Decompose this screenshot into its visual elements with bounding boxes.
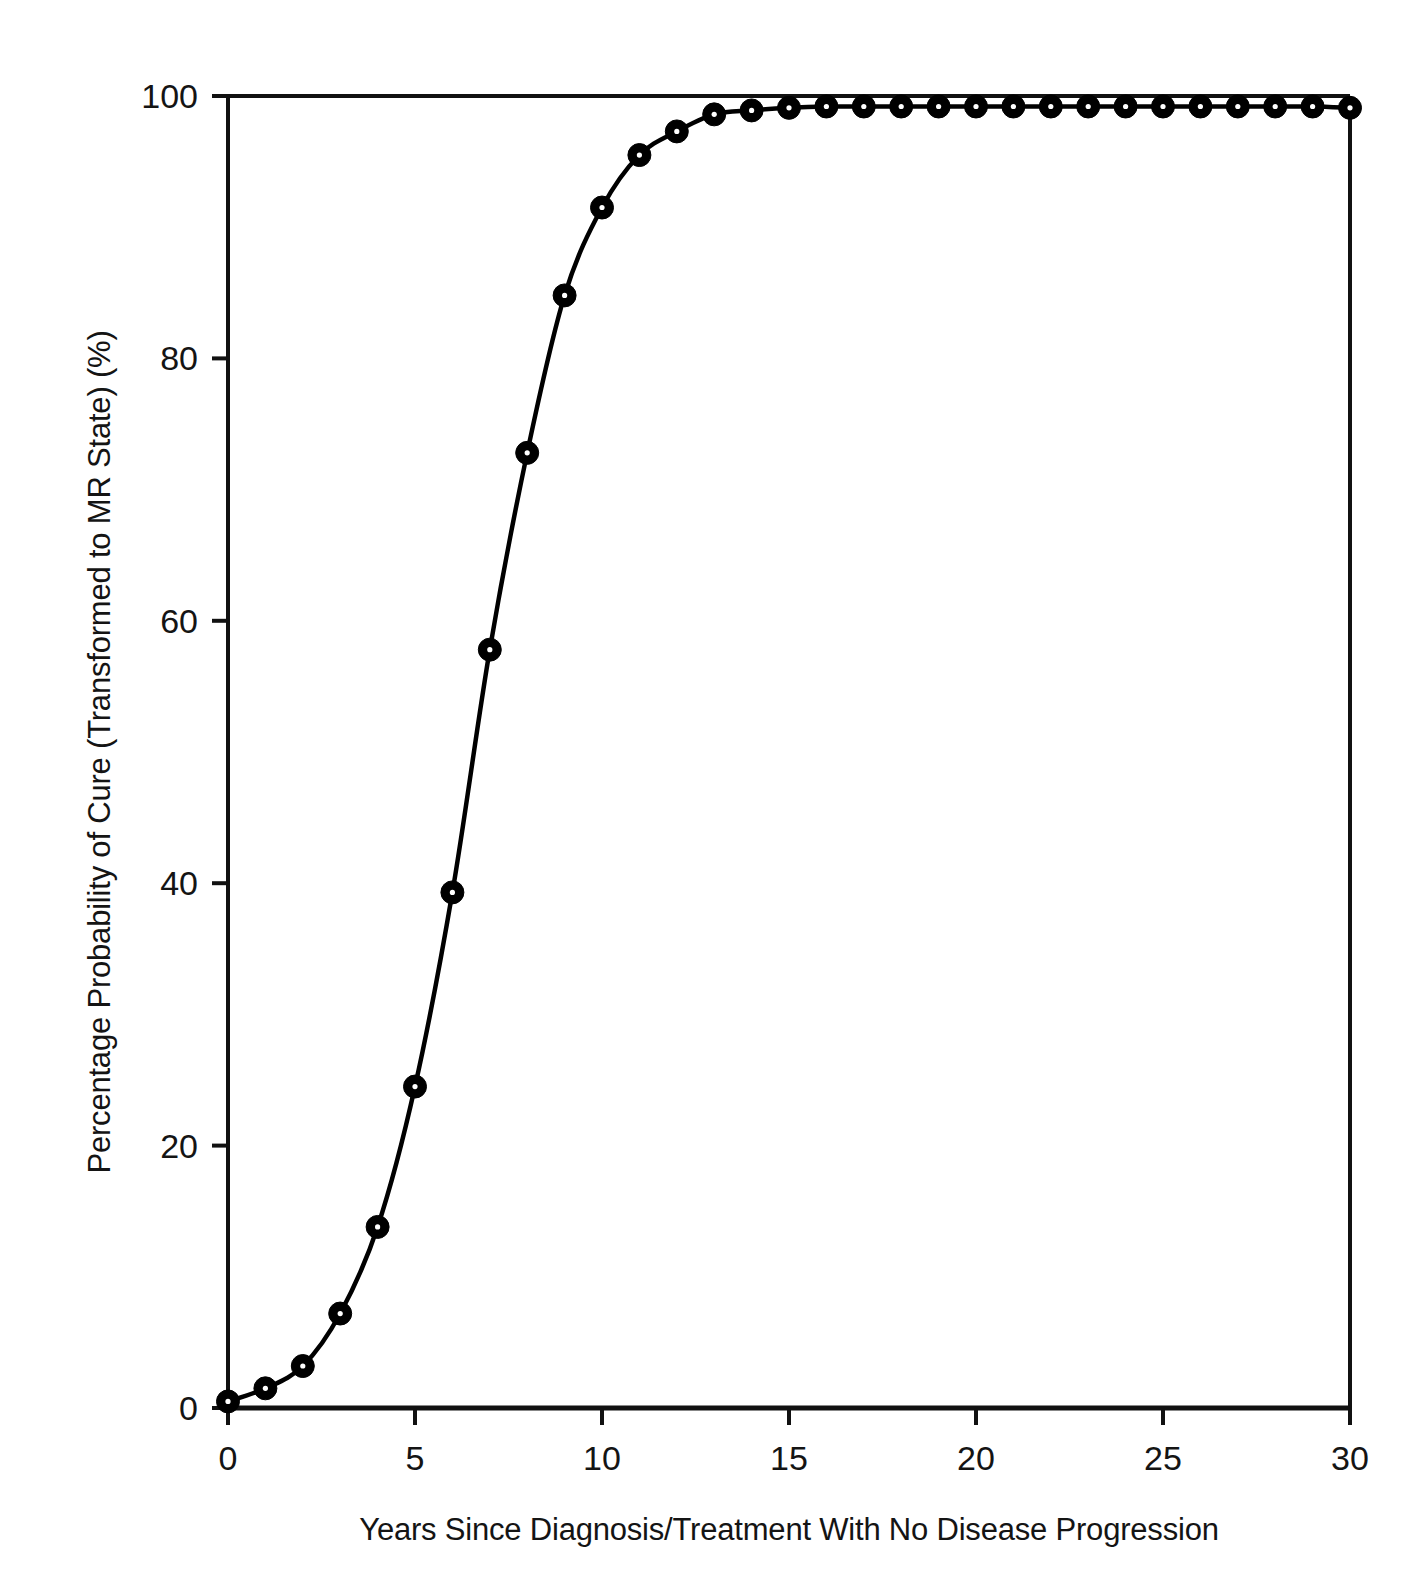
data-point-center xyxy=(1347,105,1352,110)
x-tick-label: 20 xyxy=(957,1439,995,1477)
data-point-center xyxy=(338,1311,343,1316)
y-axis-title: Percentage Probability of Cure (Transfor… xyxy=(82,330,117,1173)
data-point-center xyxy=(412,1084,417,1089)
data-series-markers xyxy=(217,95,1362,1413)
data-point xyxy=(1114,95,1137,118)
data-point-center xyxy=(599,205,604,210)
data-point xyxy=(1152,95,1175,118)
x-axis-ticks xyxy=(228,1408,1350,1425)
data-point-center xyxy=(674,129,679,134)
x-axis-title: Years Since Diagnosis/Treatment With No … xyxy=(359,1512,1218,1547)
data-point-center xyxy=(1310,104,1315,109)
y-axis-tick-labels: 020406080100 xyxy=(141,77,198,1427)
data-point-center xyxy=(824,104,829,109)
data-point-center xyxy=(263,1386,268,1391)
data-point-center xyxy=(525,450,530,455)
data-point-center xyxy=(450,890,455,895)
y-tick-label: 40 xyxy=(160,864,198,902)
data-point-center xyxy=(749,108,754,113)
data-point-center xyxy=(899,104,904,109)
data-point-center xyxy=(712,112,717,117)
figure-container: 020406080100 051015202530 Years Since Di… xyxy=(0,0,1424,1589)
data-point xyxy=(591,196,614,219)
data-point xyxy=(927,95,950,118)
data-point-center xyxy=(1048,104,1053,109)
data-point xyxy=(1264,95,1287,118)
x-tick-label: 10 xyxy=(583,1439,621,1477)
data-point xyxy=(815,95,838,118)
y-axis-ticks xyxy=(212,96,228,1408)
x-tick-label: 15 xyxy=(770,1439,808,1477)
data-point xyxy=(404,1075,427,1098)
data-point-center xyxy=(1198,104,1203,109)
data-point xyxy=(1077,95,1100,118)
x-axis-tick-labels: 051015202530 xyxy=(219,1439,1369,1477)
data-point xyxy=(478,638,501,661)
data-point-center xyxy=(1011,104,1016,109)
data-point-center xyxy=(1235,104,1240,109)
data-point xyxy=(1039,95,1062,118)
data-point xyxy=(1301,95,1324,118)
y-tick-label: 100 xyxy=(141,77,198,115)
data-point xyxy=(217,1390,240,1413)
data-point-center xyxy=(973,104,978,109)
data-point xyxy=(291,1355,314,1378)
data-point xyxy=(628,144,651,167)
y-tick-label: 0 xyxy=(179,1389,198,1427)
data-point-center xyxy=(936,104,941,109)
data-series-line xyxy=(228,106,1350,1401)
data-point xyxy=(1002,95,1025,118)
line-chart: 020406080100 051015202530 Years Since Di… xyxy=(0,0,1424,1589)
data-point xyxy=(665,120,688,143)
data-point-center xyxy=(375,1224,380,1229)
data-point-center xyxy=(562,293,567,298)
data-point-center xyxy=(786,105,791,110)
x-tick-label: 30 xyxy=(1331,1439,1369,1477)
y-tick-label: 20 xyxy=(160,1127,198,1165)
plot-frame xyxy=(228,96,1350,1408)
y-tick-label: 60 xyxy=(160,602,198,640)
data-point xyxy=(516,441,539,464)
data-point xyxy=(890,95,913,118)
data-point xyxy=(254,1377,277,1400)
data-point xyxy=(1189,95,1212,118)
data-point xyxy=(1339,96,1362,119)
data-point xyxy=(366,1215,389,1238)
data-point xyxy=(441,881,464,904)
data-point xyxy=(740,99,763,122)
data-point xyxy=(852,95,875,118)
data-point-center xyxy=(225,1399,230,1404)
x-tick-label: 5 xyxy=(406,1439,425,1477)
y-tick-label: 80 xyxy=(160,339,198,377)
data-point xyxy=(778,96,801,119)
x-tick-label: 25 xyxy=(1144,1439,1182,1477)
data-point-center xyxy=(1123,104,1128,109)
data-point-center xyxy=(1273,104,1278,109)
x-tick-label: 0 xyxy=(219,1439,238,1477)
data-point-center xyxy=(1160,104,1165,109)
data-point-center xyxy=(1086,104,1091,109)
data-point-center xyxy=(300,1363,305,1368)
data-point-center xyxy=(861,104,866,109)
data-point xyxy=(965,95,988,118)
data-point xyxy=(1226,95,1249,118)
data-point-center xyxy=(487,647,492,652)
data-point xyxy=(703,103,726,126)
data-point xyxy=(553,284,576,307)
data-point xyxy=(329,1302,352,1325)
data-point-center xyxy=(637,152,642,157)
